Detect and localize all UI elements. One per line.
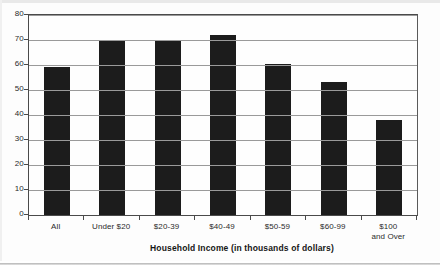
gridline [29, 15, 417, 16]
y-axis-tick-label: 20 [2, 159, 24, 168]
y-axis-tick-label: 60 [2, 59, 24, 68]
x-axis-title: Household Income (in thousands of dollar… [0, 243, 440, 253]
y-axis-tick-mark [24, 214, 28, 215]
bar[interactable] [210, 35, 236, 215]
bar[interactable] [321, 82, 347, 215]
y-axis-tick-label: 10 [2, 184, 24, 193]
gridline [29, 115, 417, 116]
y-axis-tick-mark [24, 89, 28, 90]
y-axis-tick-mark [24, 64, 28, 65]
x-axis-tick-label: $100and Over [361, 222, 416, 242]
scan-edge-top [0, 0, 440, 3]
x-axis-tick-mark [194, 216, 195, 220]
x-axis-tick-label: $40-49 [194, 222, 249, 232]
gridline [29, 165, 417, 166]
x-axis-tick-label: Under $20 [83, 222, 138, 232]
y-axis-tick-mark [24, 139, 28, 140]
x-axis: AllUnder $20$20-39$40-49$50-59$60-99$100… [28, 216, 418, 260]
y-axis-tick-label: 0 [2, 209, 24, 218]
x-axis-tick-label: $50-59 [250, 222, 305, 232]
x-axis-tick-mark [416, 216, 417, 220]
x-axis-tick-mark [361, 216, 362, 220]
gridline [29, 90, 417, 91]
gridline [29, 40, 417, 41]
scan-edge-bottom [0, 261, 440, 265]
y-axis-tick-label: 50 [2, 84, 24, 93]
y-axis-tick-mark [24, 189, 28, 190]
gridline [29, 65, 417, 66]
x-axis-tick-label: $60-99 [305, 222, 360, 232]
x-axis-tick-mark [83, 216, 84, 220]
y-axis-tick-mark [24, 39, 28, 40]
x-axis-tick-label: All [28, 222, 83, 232]
x-axis-tick-label: $20-39 [139, 222, 194, 232]
y-axis-tick-label: 80 [2, 9, 24, 18]
x-axis-tick-mark [250, 216, 251, 220]
y-axis-tick-mark [24, 164, 28, 165]
x-axis-tick-mark [28, 216, 29, 220]
y-axis-tick-label: 30 [2, 134, 24, 143]
x-axis-tick-mark [305, 216, 306, 220]
y-axis-tick-mark [24, 114, 28, 115]
bar-chart-figure: 80706050403020100 AllUnder $20$20-39$40-… [0, 0, 440, 265]
y-axis-tick-label: 40 [2, 109, 24, 118]
plot-area [28, 14, 418, 216]
gridline [29, 190, 417, 191]
y-axis-tick-mark [24, 14, 28, 15]
y-axis-tick-label: 70 [2, 34, 24, 43]
bar[interactable] [376, 120, 402, 215]
x-axis-tick-mark [139, 216, 140, 220]
gridline [29, 140, 417, 141]
